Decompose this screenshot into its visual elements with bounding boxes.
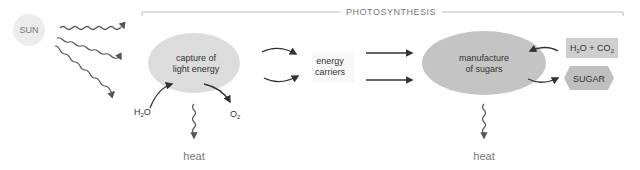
photosynthesis-bracket: PHOTOSYNTHESIS <box>142 7 623 17</box>
manufacture-of-sugars: manufacture of sugars <box>422 31 546 95</box>
sun: SUN <box>13 14 45 46</box>
light-rays <box>55 27 124 93</box>
carriers-label-line1: energy <box>316 56 344 66</box>
capture-label-line1: capture of <box>176 53 217 63</box>
heat-label-left: heat <box>183 150 204 162</box>
sun-label: SUN <box>19 25 38 35</box>
photosynthesis-diagram: PHOTOSYNTHESIS SUN capture of light ener… <box>0 0 640 170</box>
heat-label-right: heat <box>473 150 494 162</box>
water-label: H2O <box>134 107 151 118</box>
water-co2-input: H2O + CO2 <box>566 38 618 58</box>
heat-wavy-arrow-left <box>193 104 196 138</box>
manufacture-label-line1: manufacture <box>459 53 509 63</box>
energy-carriers: energy carriers <box>312 52 354 82</box>
heat-wavy-arrow-right <box>483 104 486 138</box>
capture-ellipse <box>148 33 240 93</box>
photosynthesis-title: PHOTOSYNTHESIS <box>346 7 436 17</box>
oxygen-label: O2 <box>230 109 241 120</box>
carriers-label-line2: carriers <box>315 67 346 77</box>
sugar-label: SUGAR <box>573 74 606 84</box>
capture-label-line2: light energy <box>173 64 220 74</box>
arrow-to-carriers-top <box>262 48 296 54</box>
manufacture-ellipse <box>422 31 546 95</box>
light-ray <box>55 46 114 93</box>
capture-light-energy: capture of light energy <box>148 33 240 93</box>
sugar-product: SUGAR <box>564 66 614 90</box>
arrow-to-carriers-bottom <box>264 76 298 82</box>
light-ray <box>57 38 121 59</box>
light-ray <box>60 27 124 30</box>
manufacture-label-line2: of sugars <box>465 64 503 74</box>
